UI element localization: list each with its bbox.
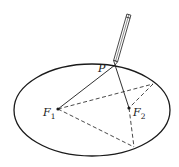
ellipse-curve	[14, 64, 170, 156]
label-p: P	[97, 62, 106, 75]
focus-f2-dot	[127, 106, 130, 109]
dashed-f1-r	[58, 109, 134, 147]
dashed-q-f2	[129, 84, 153, 108]
label-f2-letter: F	[132, 106, 141, 119]
label-f1-letter: F	[42, 106, 51, 119]
focus-f1-dot	[56, 107, 59, 110]
ellipse-pencil-diagram: P F1 F2	[0, 0, 179, 167]
string-p-f1	[58, 65, 115, 109]
label-f1-subscript: 1	[51, 112, 56, 121]
pencil-icon	[114, 14, 131, 65]
label-f2: F2	[132, 106, 146, 121]
label-f1: F1	[42, 106, 55, 121]
string-p-f2	[115, 65, 129, 108]
label-f2-subscript: 2	[141, 112, 146, 121]
